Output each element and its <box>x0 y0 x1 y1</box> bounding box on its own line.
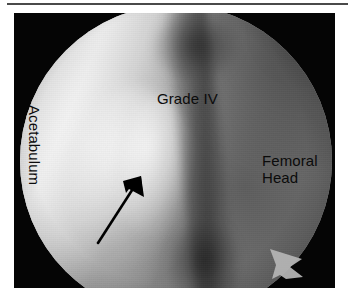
label-femoral-head: FemoralHead <box>262 152 318 186</box>
label-acetabulum: Acetabulum <box>26 105 43 185</box>
top-horizontal-rule <box>7 3 348 5</box>
arthroscopic-image-panel <box>14 13 335 288</box>
image-grain-texture <box>20 13 332 288</box>
label-femoral-head-line2: Head <box>262 169 298 186</box>
label-femoral-head-line1: Femoral <box>262 152 318 169</box>
label-grade-iv: Grade IV <box>157 90 218 107</box>
figure-root: Grade IV FemoralHead Acetabulum <box>0 0 348 300</box>
arthroscopic-circular-field <box>20 13 332 288</box>
